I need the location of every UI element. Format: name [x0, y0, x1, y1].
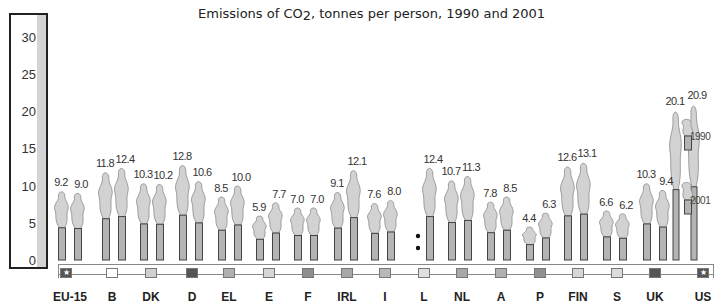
- value-label: 6.6: [599, 196, 613, 208]
- chimney-bar: [175, 166, 189, 260]
- chimney-bar: [367, 204, 381, 260]
- chimney-bar: [499, 197, 513, 260]
- chimney-bar: [290, 208, 304, 260]
- value-label: 7.0: [290, 193, 304, 205]
- chimney-bar: [306, 208, 320, 260]
- country-flag-swatch: [106, 268, 118, 278]
- not-available-marker: [416, 234, 420, 238]
- value-label: 10.3: [133, 168, 152, 180]
- country-flag-swatch: [418, 268, 430, 278]
- country-label: I: [383, 290, 386, 304]
- chimney-bar: [330, 193, 344, 260]
- chimney-bar: [383, 201, 397, 260]
- value-label: 10.3: [636, 168, 655, 180]
- value-label: 12.8: [172, 150, 191, 162]
- country-flag-swatch: [341, 268, 353, 278]
- chimney-bar: [655, 190, 669, 260]
- chimney-bar: [252, 216, 266, 260]
- value-label: 10.7: [441, 165, 460, 177]
- value-label: 7.8: [483, 187, 497, 199]
- chimney-bar: [615, 214, 629, 260]
- value-label: 8.5: [503, 182, 517, 194]
- country-label: EL: [221, 290, 236, 304]
- country-flag-swatch: [649, 268, 661, 278]
- chimney-bar: [483, 202, 497, 260]
- value-label: 11.8: [96, 157, 114, 169]
- country-label: B: [108, 290, 117, 304]
- country-label: DK: [142, 290, 159, 304]
- country-label: A: [497, 290, 506, 304]
- value-label: 10.0: [231, 171, 250, 183]
- country-label: UK: [646, 290, 663, 304]
- chimney-bar: [444, 181, 458, 260]
- value-label: 4.4: [522, 212, 536, 224]
- chimney-bar: [54, 192, 68, 260]
- country-label: EU-15: [53, 290, 87, 304]
- value-label: 10.6: [192, 166, 211, 178]
- chimney-bar: [422, 168, 436, 260]
- value-label: 8.5: [214, 182, 228, 194]
- value-label: 9.2: [54, 176, 68, 188]
- value-label: 11.3: [462, 161, 480, 173]
- country-flag-swatch: [572, 268, 584, 278]
- value-label: 12.4: [115, 153, 134, 165]
- chimney-bar: [136, 184, 150, 260]
- country-flag-swatch: [611, 268, 623, 278]
- chimney-bar: [346, 171, 360, 260]
- legend-label-2001: 2001: [690, 195, 710, 206]
- chimney-bar: [191, 182, 205, 260]
- chimney-bar: [214, 197, 228, 260]
- value-label: 5.9: [252, 201, 266, 213]
- chimney-bar: [576, 163, 590, 260]
- country-flag-swatch: ★: [697, 268, 709, 278]
- value-label: 9.4: [659, 175, 673, 187]
- value-label: 7.0: [310, 193, 324, 205]
- country-flag-swatch: [456, 268, 468, 278]
- chimney-bar: [98, 173, 112, 260]
- chimney-bar: [560, 167, 574, 260]
- value-label: 12.4: [423, 153, 442, 165]
- chimney-bar: [268, 203, 282, 260]
- country-label: E: [265, 290, 273, 304]
- country-flag-swatch: [379, 268, 391, 278]
- country-label: US: [695, 290, 712, 304]
- country-flag-swatch: [145, 268, 157, 278]
- country-flag-swatch: [186, 268, 198, 278]
- value-label: 13.1: [577, 147, 596, 159]
- country-flag-swatch: [302, 268, 314, 278]
- value-label: 12.6: [557, 151, 576, 163]
- legend-label-1990: 1990: [690, 131, 710, 142]
- value-label: 7.7: [272, 188, 286, 200]
- country-flag-swatch: [495, 268, 507, 278]
- value-label: 6.2: [619, 199, 633, 211]
- country-label: NL: [454, 290, 470, 304]
- not-available-marker: [416, 246, 420, 250]
- country-label: L: [420, 290, 427, 304]
- chimney-bar: [522, 227, 536, 260]
- value-label: 20.1: [665, 95, 684, 107]
- country-flag-swatch: [534, 268, 546, 278]
- country-flag-swatch: [223, 268, 235, 278]
- value-label: 20.9: [687, 89, 706, 101]
- value-label: 9.0: [74, 178, 88, 190]
- country-label: F: [304, 290, 311, 304]
- chimney-bar: [230, 186, 244, 260]
- country-label: P: [536, 290, 544, 304]
- country-label: IRL: [337, 290, 356, 304]
- value-label: 12.1: [347, 155, 366, 167]
- chimney-bar: [460, 177, 474, 260]
- country-flag-swatch: [263, 268, 275, 278]
- country-label: S: [613, 290, 621, 304]
- chimney-bar: [599, 211, 613, 260]
- value-label: 10.2: [153, 169, 172, 181]
- chimney-bar: [639, 184, 653, 260]
- chimney-bar: [152, 185, 166, 260]
- chimney-bar: [70, 193, 84, 260]
- value-label: 7.6: [367, 188, 381, 200]
- country-label: FIN: [568, 290, 587, 304]
- country-flag-swatch: ★: [60, 268, 72, 278]
- chimney-bar: [114, 168, 128, 260]
- value-label: 6.3: [542, 198, 556, 210]
- country-label: D: [188, 290, 197, 304]
- value-label: 9.1: [330, 177, 344, 189]
